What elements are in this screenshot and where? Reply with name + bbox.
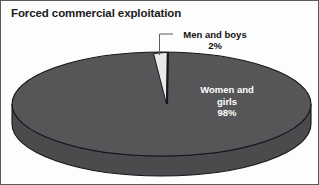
slice-label-women-and-girls-value: 98% (183, 107, 271, 119)
slice-label-women-and-girls-name-1: Women and (183, 84, 271, 96)
slice-label-women-and-girls-name-2: girls (183, 96, 271, 108)
slice-label-women-and-girls: Women and girls 98% (183, 84, 271, 119)
slice-label-men-and-boys: Men and boys 2% (173, 29, 257, 51)
pie-chart-graphic (1, 1, 319, 185)
slice-label-men-and-boys-name: Men and boys (173, 29, 257, 40)
slice-label-men-and-boys-value: 2% (173, 40, 257, 51)
pie-chart-figure: Forced commercial exploitation Men and b… (0, 0, 319, 185)
